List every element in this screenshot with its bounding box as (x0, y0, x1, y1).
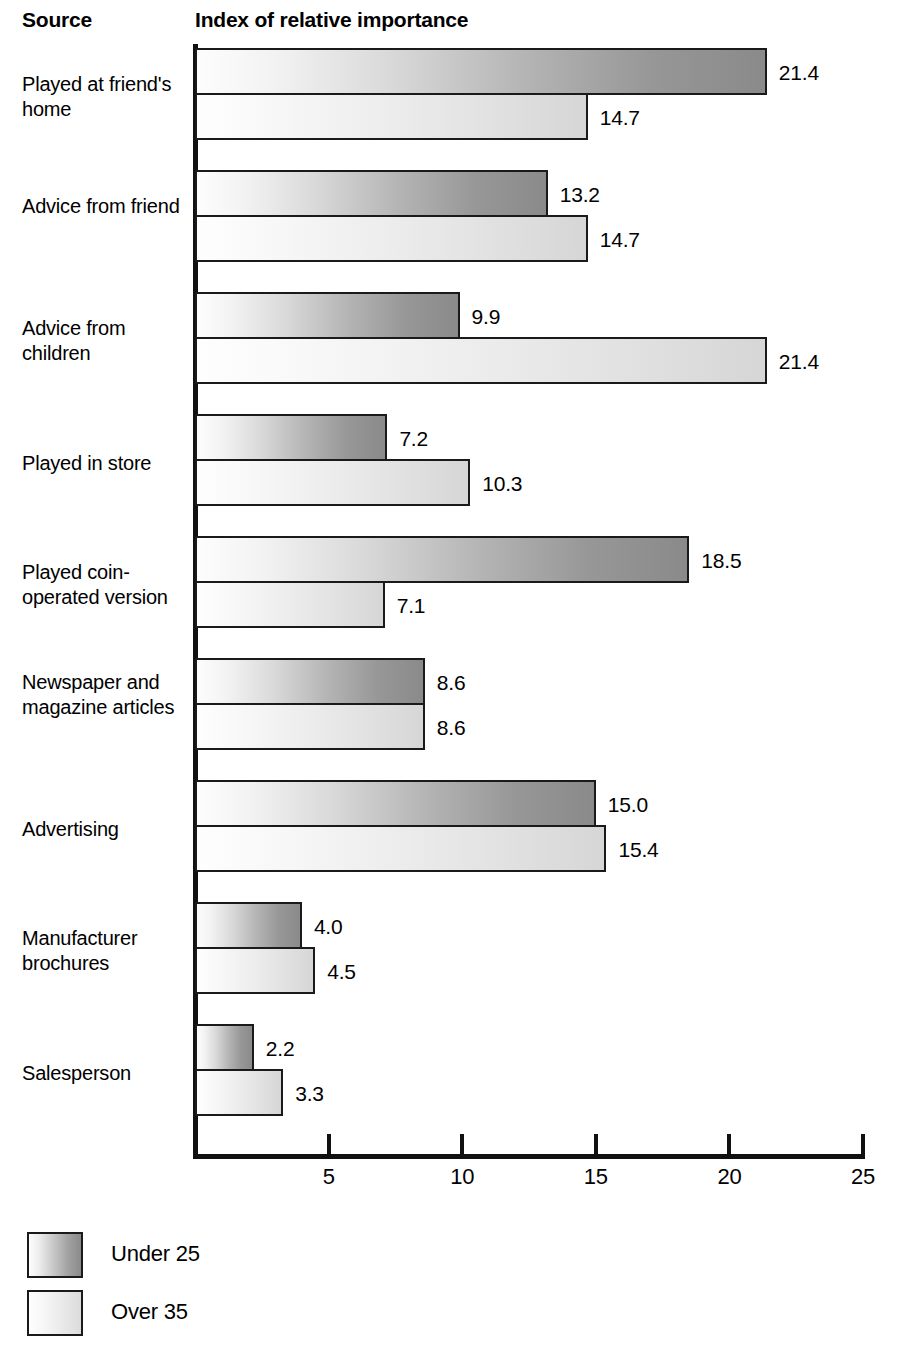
axis-tick-label: 15 (584, 1164, 608, 1190)
bar-value-label: 15.4 (618, 839, 658, 860)
bar-under25 (195, 536, 689, 583)
axis-tick-label: 25 (851, 1164, 875, 1190)
bar-under25 (195, 292, 460, 339)
category-label: Manufacturer brochures (22, 926, 190, 976)
bar-value-label: 15.0 (608, 794, 648, 815)
legend-item-over35[interactable]: Over 35 (27, 1290, 427, 1342)
bar-value-label: 7.2 (399, 428, 428, 449)
bar-under25 (195, 1024, 254, 1071)
bar-over35 (195, 703, 425, 750)
axis-tick-mark (861, 1134, 865, 1155)
bar-value-label: 4.5 (327, 961, 356, 982)
bar-value-label: 9.9 (472, 306, 501, 327)
legend-label: Over 35 (111, 1298, 188, 1326)
legend-item-under25[interactable]: Under 25 (27, 1232, 427, 1284)
bar-under25 (195, 902, 302, 949)
axis-tick-label: 20 (717, 1164, 741, 1190)
category-label: Played in store (22, 451, 190, 476)
legend-swatch-over35 (27, 1290, 83, 1336)
category-label: Advice from friend (22, 194, 190, 219)
chart-title: Index of relative importance (195, 8, 468, 32)
bar-over35 (195, 1069, 283, 1116)
bar-value-label: 21.4 (779, 351, 819, 372)
plot-area: 21.414.713.214.79.921.47.210.318.57.18.6… (0, 44, 907, 1164)
bar-value-label: 21.4 (779, 62, 819, 83)
category-label: Advice from children (22, 316, 190, 366)
legend: Under 25Over 35 (0, 1232, 907, 1360)
value-axis-line (193, 1154, 865, 1159)
legend-swatch-under25 (27, 1232, 83, 1278)
bar-value-label: 14.7 (600, 229, 640, 250)
category-label: Newspaper and magazine articles (22, 670, 190, 720)
axis-tick-label: 10 (450, 1164, 474, 1190)
category-label: Advertising (22, 817, 190, 842)
bar-value-label: 14.7 (600, 107, 640, 128)
bar-value-label: 3.3 (295, 1083, 324, 1104)
bar-over35 (195, 337, 767, 384)
bar-over35 (195, 581, 385, 628)
category-label: Salesperson (22, 1061, 190, 1086)
legend-label: Under 25 (111, 1240, 200, 1268)
bar-value-label: 7.1 (397, 595, 426, 616)
bar-value-label: 2.2 (266, 1038, 295, 1059)
bar-under25 (195, 48, 767, 95)
axis-tick-mark (460, 1134, 464, 1155)
category-label: Played at friend's home (22, 72, 190, 122)
axis-tick-label: 5 (323, 1164, 335, 1190)
bar-over35 (195, 459, 470, 506)
chart-page: Source Index of relative importance 21.4… (0, 0, 907, 1360)
bar-value-label: 10.3 (482, 473, 522, 494)
bar-value-label: 18.5 (701, 550, 741, 571)
bar-over35 (195, 215, 588, 262)
bar-value-label: 4.0 (314, 916, 343, 937)
category-label: Played coin-operated version (22, 560, 190, 610)
bar-over35 (195, 947, 315, 994)
bar-over35 (195, 93, 588, 140)
bar-under25 (195, 658, 425, 705)
bar-under25 (195, 780, 596, 827)
axis-tick-mark (727, 1134, 731, 1155)
axis-tick-mark (594, 1134, 598, 1155)
bar-value-label: 8.6 (437, 717, 466, 738)
axis-tick-mark (327, 1134, 331, 1155)
bar-over35 (195, 825, 606, 872)
bar-under25 (195, 414, 387, 461)
bar-value-label: 13.2 (560, 184, 600, 205)
source-column-header: Source (22, 8, 92, 32)
bar-value-label: 8.6 (437, 672, 466, 693)
bar-under25 (195, 170, 548, 217)
